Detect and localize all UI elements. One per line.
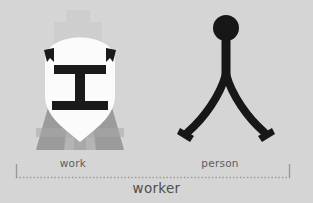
compound-label-worker: worker bbox=[0, 180, 313, 196]
glyph-work bbox=[14, 0, 146, 158]
component-label-work: work bbox=[45, 157, 101, 169]
character-breakdown-diagram: work person worker bbox=[0, 0, 313, 203]
glyph-person bbox=[160, 0, 292, 158]
person-right-leg bbox=[226, 74, 264, 132]
person-left-leg bbox=[188, 74, 226, 132]
person-head bbox=[213, 15, 239, 41]
component-label-person: person bbox=[191, 157, 249, 169]
